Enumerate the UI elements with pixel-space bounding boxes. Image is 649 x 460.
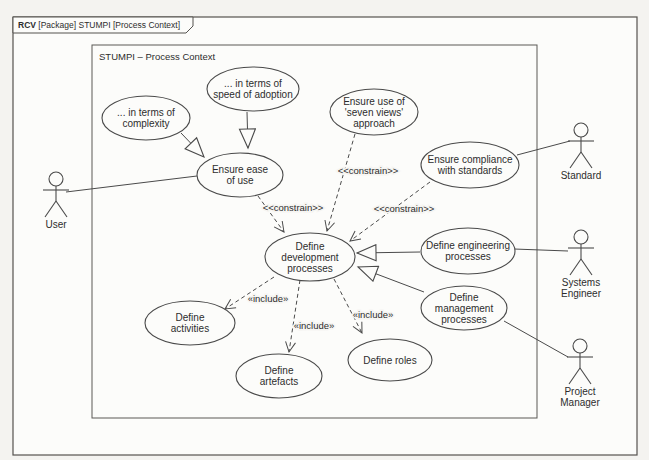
actor-user-label-line-0: User (45, 219, 67, 230)
actor-standard-label-line-0: Standard (561, 170, 602, 181)
usecase-in-terms-of-complexity-line-1: complexity (122, 118, 169, 129)
usecase-ensure-ease-of-use-line-1: of use (226, 175, 254, 186)
actor-standard-head (574, 123, 588, 137)
usecase-define-development-processes-line-2: processes (287, 263, 333, 274)
usecase-define-roles: Define roles (348, 339, 432, 381)
edge-label-constrain-compliance: <<constrain>> (374, 203, 435, 214)
usecase-define-management-processes-line-1: management (435, 303, 494, 314)
usecase-ensure-use-of-seven-views-line-2: approach (353, 118, 395, 129)
frame-title-text: [Package] STUMPI [Process Context] (36, 20, 180, 30)
usecase-define-activities-label: Defineactivities (171, 312, 209, 334)
actor-project-manager-head (573, 339, 587, 353)
usecase-ensure-compliance-with-standards-line-1: with standards (437, 165, 502, 176)
usecase-ensure-use-of-seven-views-line-0: Ensure use of (343, 96, 405, 107)
actor-systems-engineer-label-line-0: Systems (562, 277, 600, 288)
process-context-title: STUMPI – Process Context (99, 51, 216, 62)
frame-title-keyword: RCV (18, 20, 36, 30)
usecase-ensure-ease-of-use: Ensure easeof use (197, 153, 283, 197)
usecase-define-engineering-processes: Define engineeringprocesses (421, 228, 515, 274)
actor-standard-label: Standard (561, 170, 602, 181)
usecase-ensure-compliance-with-standards: Ensure compliancewith standards (421, 142, 519, 188)
usecase-define-engineering-processes-line-0: Define engineering (426, 240, 510, 251)
edge-label-include-artefacts: «include» (294, 320, 335, 331)
usecase-define-roles-line-0: Define roles (363, 355, 416, 366)
diagram-svg: RCV [Package] STUMPI [Process Context]ST… (0, 0, 649, 460)
usecase-define-artefacts-line-1: artefacts (260, 376, 298, 387)
usecase-in-terms-of-speed-of-adoption-line-0: ... in terms of (224, 78, 282, 89)
usecase-in-terms-of-speed-of-adoption: ... in terms ofspeed of adoption (207, 67, 299, 111)
usecase-define-activities: Defineactivities (145, 301, 235, 345)
edge-label-include-activities: «include» (248, 293, 289, 304)
usecase-in-terms-of-complexity: ... in terms ofcomplexity (102, 96, 190, 140)
actor-user-label: User (45, 219, 67, 230)
uml-use-case-diagram: RCV [Package] STUMPI [Process Context]ST… (0, 0, 649, 460)
usecase-ensure-use-of-seven-views: Ensure use of'seven views'approach (330, 89, 418, 135)
usecase-define-artefacts-label: Defineartefacts (260, 365, 298, 387)
actor-systems-engineer-label-line-1: Engineer (561, 288, 602, 299)
usecase-in-terms-of-speed-of-adoption-line-1: speed of adoption (213, 89, 293, 100)
usecase-define-management-processes-line-0: Define (450, 292, 479, 303)
usecase-define-activities-line-0: Define (176, 312, 205, 323)
edge-label-constrain-seven-views: <<constrain>> (338, 165, 399, 176)
usecase-define-artefacts: Defineartefacts (236, 354, 322, 398)
actor-user-head (49, 172, 63, 186)
usecase-define-development-processes-line-0: Define (296, 241, 325, 252)
usecase-define-management-processes-line-2: processes (441, 314, 487, 325)
edge-label-constrain-ease: <<constrain>> (263, 202, 324, 213)
usecase-define-management-processes: Definemanagementprocesses (421, 286, 507, 330)
usecase-define-roles-label: Define roles (363, 355, 416, 366)
usecase-define-development-processes-line-1: development (281, 252, 338, 263)
actor-systems-engineer-label: SystemsEngineer (561, 277, 602, 299)
usecase-in-terms-of-complexity-line-0: ... in terms of (117, 107, 175, 118)
actor-project-manager-label: ProjectManager (560, 386, 600, 408)
usecase-define-engineering-processes-line-1: processes (445, 251, 491, 262)
frame-title: RCV [Package] STUMPI [Process Context] (18, 20, 180, 30)
usecase-ensure-ease-of-use-line-0: Ensure ease (212, 164, 269, 175)
actor-project-manager-label-line-0: Project (564, 386, 595, 397)
usecase-define-activities-line-1: activities (171, 323, 209, 334)
usecase-define-artefacts-line-0: Define (265, 365, 294, 376)
usecase-ensure-compliance-with-standards-label: Ensure compliancewith standards (427, 154, 512, 176)
usecase-ensure-use-of-seven-views-line-1: 'seven views' (345, 107, 403, 118)
usecase-ensure-compliance-with-standards-line-0: Ensure compliance (427, 154, 512, 165)
usecase-in-terms-of-complexity-label: ... in terms ofcomplexity (117, 107, 175, 129)
edge-label-include-roles: «include» (353, 309, 394, 320)
usecase-in-terms-of-speed-of-adoption-label: ... in terms ofspeed of adoption (213, 78, 293, 100)
actor-project-manager-label-line-1: Manager (560, 397, 600, 408)
actor-systems-engineer-head (574, 230, 588, 244)
usecase-define-development-processes: Definedevelopmentprocesses (265, 233, 355, 281)
